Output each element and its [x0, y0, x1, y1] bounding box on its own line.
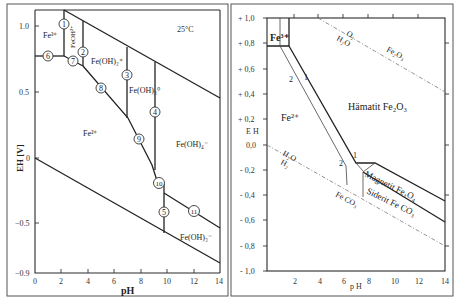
circle-7: 7 — [68, 56, 78, 66]
left-chart: 1.0 0.5 0 −0.5 −0.9 0 2 4 6 8 10 12 14 p… — [15, 10, 223, 296]
left-ytick-0.5: 0.5 — [19, 88, 29, 97]
circle-6: 6 — [43, 51, 53, 61]
label-fe3: Fe³⁺ — [43, 31, 57, 40]
svg-text:4: 4 — [153, 108, 157, 117]
right-plot-box — [267, 18, 445, 271]
right-xlabel: p H — [350, 282, 362, 291]
boundary-1-junction — [356, 163, 363, 171]
left-ytick-0: 0 — [26, 154, 30, 163]
svg-text:8: 8 — [99, 84, 103, 93]
temperature-label: 25°C — [177, 25, 194, 34]
left-xtick-14: 14 — [215, 277, 223, 286]
left-ytick-minus0.9: −0.9 — [15, 269, 30, 278]
label-boundary-1-bottom: 1 — [353, 151, 357, 160]
o2-h2o-line — [318, 18, 445, 92]
svg-text:10: 10 — [156, 180, 164, 188]
right-xtick-12: 12 — [415, 277, 423, 286]
label-fe2: Fe²⁺ — [281, 112, 299, 123]
right-ytick-0.8: + 0,8 — [238, 39, 255, 48]
svg-text:5: 5 — [162, 208, 166, 217]
label-boundary-2-top: 2 — [289, 75, 293, 84]
left-xlabel: pH — [121, 285, 135, 296]
right-ytick-minus0.2: - 0,2 — [240, 166, 255, 175]
left-xtick-10: 10 — [163, 277, 171, 286]
svg-text:9: 9 — [137, 135, 141, 144]
circle-2: 2 — [78, 47, 88, 57]
label-boundary-2-bottom: 2 — [339, 159, 343, 168]
right-ytick-0.4: + 0,4 — [238, 90, 255, 99]
left-ytick-minus0.5: −0.5 — [15, 219, 30, 228]
right-chart: + 1,0 + 0,8 + 0,6 + 0,4 + 0,2 0,0 - 0,2 … — [238, 14, 449, 291]
left-xtick-8: 8 — [139, 277, 143, 286]
label-fe2: Fe²⁺ — [83, 129, 97, 138]
right-panel-frame — [231, 4, 453, 296]
label-fe3: Fe³⁺ — [270, 32, 289, 43]
right-ytick-0.0: 0,0 — [246, 141, 256, 150]
circle-9: 9 — [134, 134, 144, 144]
right-ytick-minus0.6: - 0,6 — [240, 216, 255, 225]
right-xtick-14: 14 — [441, 277, 449, 286]
label-feoh2: FeOH²⁺ — [69, 25, 77, 48]
label-feoh3: Fe(OH)₃⁰ — [129, 86, 160, 95]
right-ytick-1.0: + 1,0 — [238, 14, 255, 23]
svg-text:1: 1 — [62, 20, 66, 29]
svg-text:2: 2 — [81, 48, 85, 57]
right-xtick-10: 10 — [391, 277, 399, 286]
right-ytick-0.6: + 0,6 — [238, 65, 255, 74]
circle-10: 10 — [154, 178, 165, 189]
circle-1: 1 — [59, 19, 69, 29]
circle-8: 8 — [96, 83, 106, 93]
label-boundary-1-top: 1 — [304, 73, 308, 82]
right-ytick-0.2: + 0,2 — [238, 115, 255, 124]
svg-text:3: 3 — [125, 71, 129, 80]
svg-text:11: 11 — [191, 208, 198, 216]
figure: 1.0 0.5 0 −0.5 −0.9 0 2 4 6 8 10 12 14 p… — [0, 0, 459, 301]
circle-3: 3 — [122, 70, 132, 80]
label-feoh3m: Fe(OH)₃⁻ — [180, 233, 212, 242]
left-xtick-6: 6 — [112, 277, 116, 286]
right-y-ticks — [263, 18, 449, 271]
circle-4: 4 — [150, 107, 160, 117]
boundary-8-9 — [83, 66, 158, 184]
label-hamatit: Hämatit Fe₂O₃ — [348, 101, 407, 112]
label-feoh4: Fe(OH)₄⁻ — [176, 140, 208, 149]
right-xtick-6: 6 — [342, 277, 346, 286]
right-ytick-minus0.4: - 0,4 — [240, 191, 255, 200]
left-xtick-4: 4 — [86, 277, 90, 286]
circle-11: 11 — [189, 206, 200, 217]
right-ytick-minus1.0: - 1,0 — [240, 267, 255, 276]
right-ylabel: E H — [246, 127, 259, 136]
right-x-ticks — [294, 14, 418, 18]
svg-text:6: 6 — [46, 52, 50, 61]
circle-5: 5 — [159, 207, 169, 217]
left-panel-frame — [7, 4, 228, 296]
right-xtick-2: 2 — [293, 277, 297, 286]
left-ytick-1.0: 1.0 — [19, 22, 29, 31]
left-ylabel: EH [V] — [15, 144, 25, 172]
right-xtick-8: 8 — [367, 277, 371, 286]
svg-text:7: 7 — [71, 57, 75, 66]
right-xtick-4: 4 — [318, 277, 322, 286]
label-feco3: Fe CO₃ — [334, 190, 360, 209]
left-xtick-0: 0 — [33, 277, 37, 286]
right-ytick-minus0.8: - 0,8 — [240, 242, 255, 251]
left-xtick-12: 12 — [190, 277, 198, 286]
label-feoh2p: Fe(OH)₂⁺ — [91, 57, 123, 66]
left-xtick-2: 2 — [59, 277, 63, 286]
